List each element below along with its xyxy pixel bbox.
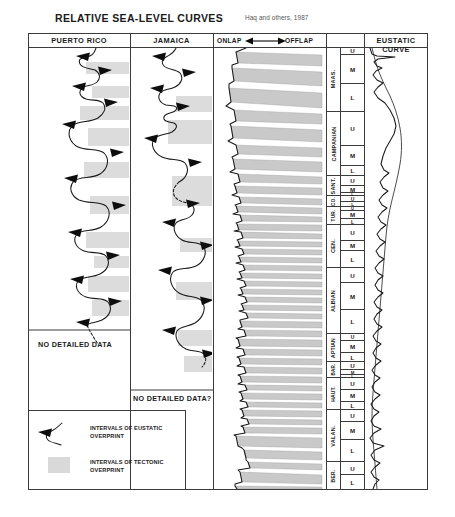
stage-name-valan: VALAN.	[326, 410, 341, 462]
substage-cell: U	[341, 410, 364, 422]
substage-cell: U	[341, 112, 364, 146]
substage-cell: U	[341, 47, 364, 55]
stage-name-ber: BER.	[326, 462, 341, 489]
curve-eustatic	[370, 48, 402, 489]
legend-tectonic-label: INTERVALS OF TECTONIC OVERPRINT	[90, 458, 164, 475]
substage-cell: M	[341, 422, 364, 440]
substage-cell: L	[341, 251, 364, 268]
substage-cell: M	[341, 241, 364, 251]
substage-cell: L	[341, 310, 364, 334]
substage-cell: L	[341, 84, 364, 112]
substage-cell: U	[341, 334, 364, 341]
stage-name-sant: SANT.	[326, 176, 341, 196]
legend-box	[28, 410, 186, 490]
substage-cell: M	[341, 283, 364, 310]
legend-tectonic-line1: INTERVALS OF TECTONIC	[90, 459, 164, 465]
stage-name-haut: HAUT.	[326, 378, 341, 410]
stage-name-cen: CEN.	[326, 225, 341, 268]
legend-eustatic-line2: OVERPRINT	[90, 433, 124, 439]
legend-tectonic-line2: OVERPRINT	[90, 467, 124, 473]
no-detailed-data-puerto-rico: NO DETAILED DATA	[38, 340, 112, 349]
substage-cell: M	[341, 55, 364, 84]
onlap-offlap-wedges	[226, 48, 322, 489]
stage-name-aptian: APTIAN	[326, 334, 341, 362]
stage-name-campanian: CAMPANIAN	[326, 112, 341, 176]
stage-name-maas: MAAS.	[326, 47, 341, 112]
substage-cell: U	[341, 378, 364, 390]
substage-cell: L	[341, 475, 364, 489]
substage-cell: U	[341, 268, 364, 283]
substage-cell: L	[341, 353, 364, 362]
stage-name-co: CO.	[326, 196, 341, 207]
substage-cell: U	[341, 462, 364, 475]
no-detailed-data-jamaica: NO DETAILED DATA?	[133, 394, 212, 403]
substage-cell: M	[341, 341, 364, 353]
stage-name-bar: BAR.	[326, 362, 341, 378]
stage-name-tur: TUR.	[326, 207, 341, 225]
legend-tectonic-swatch	[48, 457, 70, 473]
substage-cell: M	[341, 146, 364, 166]
substage-cell: U	[341, 176, 364, 186]
substage-cell: M	[341, 390, 364, 402]
curve-jamaica	[144, 48, 216, 367]
substage-cell: L	[341, 440, 364, 462]
substage-cell: U	[341, 225, 364, 241]
legend-eustatic-label: INTERVALS OF EUSTATIC OVERPRINT	[90, 424, 162, 441]
stage-name-albian: ALBIAN	[326, 268, 341, 334]
substage-cell: L	[341, 166, 364, 176]
legend-eustatic-line1: INTERVALS OF EUSTATIC	[90, 425, 162, 431]
substage-cell: L	[341, 402, 364, 410]
